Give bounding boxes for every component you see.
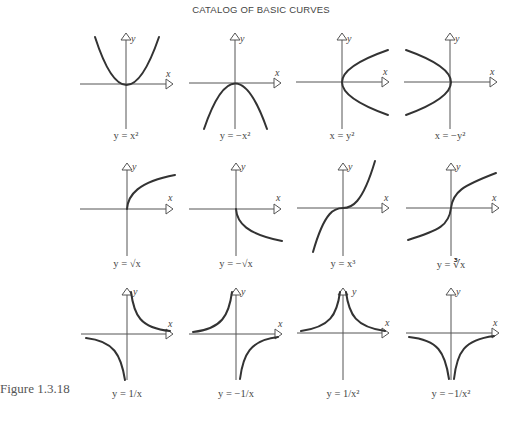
svg-text:x: x: [167, 318, 173, 329]
svg-text:x: x: [382, 66, 388, 77]
panel-y-eq-sqrt-x: yx: [80, 161, 175, 256]
svg-text:y: y: [132, 286, 138, 297]
svg-text:x: x: [165, 68, 171, 79]
svg-text:y: y: [239, 33, 245, 44]
panel-y-eq-x3: yx: [297, 161, 389, 256]
label-x-eq-y2: x = y²: [330, 130, 355, 141]
panel-x-eq-y2: yx: [296, 33, 389, 129]
panel-y-eq-neg-1-over-x: yx: [189, 286, 283, 380]
svg-text:x: x: [491, 192, 497, 203]
label-y-eq-neg-1-over-x2: y = −1/x²: [432, 388, 471, 399]
label-y-eq-neg-sqrt-x: y = −√x: [219, 258, 252, 269]
svg-text:y: y: [454, 33, 460, 44]
label-y-eq-x3: y = x³: [331, 258, 356, 269]
panel-y-eq-x2: yx: [80, 33, 173, 129]
curves-diagram: yx yx yx yx yx yx yx: [0, 0, 522, 424]
svg-text:y: y: [240, 286, 246, 297]
svg-text:x: x: [383, 192, 389, 203]
svg-text:x: x: [384, 317, 390, 328]
svg-text:y: y: [351, 286, 357, 297]
svg-text:x: x: [274, 67, 280, 78]
svg-text:y: y: [346, 33, 352, 44]
label-y-eq-neg-x2: y = −x²: [220, 130, 251, 141]
panel-x-eq-neg-y2: yx: [404, 33, 497, 129]
svg-text:y: y: [130, 33, 136, 44]
label-y-eq-cbrt-x: y = ∛x: [437, 258, 466, 270]
panel-y-eq-1-over-x: yx: [81, 286, 173, 380]
panel-y-eq-neg-x2: yx: [189, 33, 281, 129]
svg-text:x: x: [492, 317, 498, 328]
panel-y-eq-neg-sqrt-x: yx: [189, 161, 282, 256]
svg-text:y: y: [455, 161, 461, 172]
label-y-eq-1-over-x: y = 1/x: [112, 388, 142, 399]
panel-y-eq-cbrt-x: yx: [406, 161, 499, 256]
svg-text:y: y: [240, 161, 246, 172]
label-y-eq-x2: y = x²: [114, 130, 139, 141]
svg-text:y: y: [131, 161, 137, 172]
label-y-eq-1-over-x2: y = 1/x²: [327, 388, 360, 399]
svg-text:x: x: [167, 192, 173, 203]
svg-text:x: x: [275, 192, 281, 203]
panel-y-eq-1-over-x2: yx: [297, 286, 390, 380]
svg-text:x: x: [277, 318, 283, 329]
label-y-eq-sqrt-x: y = √x: [113, 258, 140, 269]
svg-text:y: y: [347, 161, 353, 172]
svg-text:y: y: [455, 286, 461, 297]
panel-y-eq-neg-1-over-x2: yx: [406, 286, 499, 380]
svg-text:x: x: [489, 66, 495, 77]
label-y-eq-neg-1-over-x: y = −1/x: [218, 388, 254, 399]
label-x-eq-neg-y2: x = −y²: [435, 130, 466, 141]
